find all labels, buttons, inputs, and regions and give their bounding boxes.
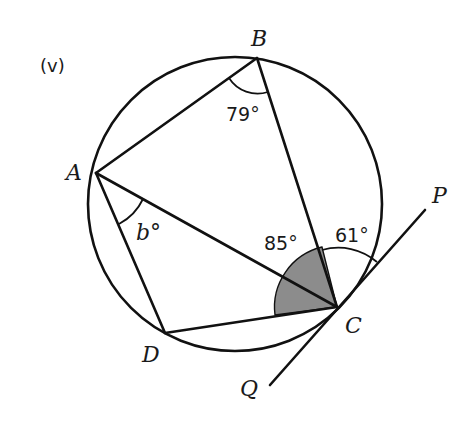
point-label-c: C (345, 313, 362, 338)
point-label-a: A (64, 160, 82, 185)
point-label-d: D (141, 342, 160, 367)
angle-label-dcb: 85° (264, 232, 298, 254)
part-label: (v) (40, 55, 65, 76)
angle-label-bac: b° (136, 220, 161, 245)
circle-geometry-figure: (v) A B C D P Q 79° b° 85° 61° (0, 0, 473, 427)
angle-arc-bcp (322, 248, 377, 262)
angle-label-bcp: 61° (335, 224, 369, 246)
angle-label-abc: 79° (226, 103, 260, 125)
point-label-p: P (431, 183, 448, 208)
angle-arc-abc (229, 78, 268, 94)
point-label-q: Q (240, 376, 258, 401)
point-label-b: B (250, 26, 267, 51)
